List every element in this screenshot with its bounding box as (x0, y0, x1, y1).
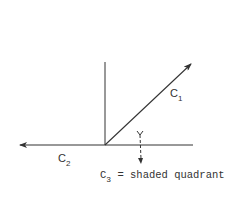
diagram-canvas: C1 C2 C3 = shaded quadrant (0, 0, 252, 199)
c1-vector-arrow (105, 64, 191, 145)
c1-label: C1 (170, 87, 183, 103)
caption-c3-shaded-quadrant: C3 = shaded quadrant (100, 169, 225, 184)
rotation-arrow-icon (137, 131, 143, 164)
c2-label: C2 (58, 152, 71, 168)
